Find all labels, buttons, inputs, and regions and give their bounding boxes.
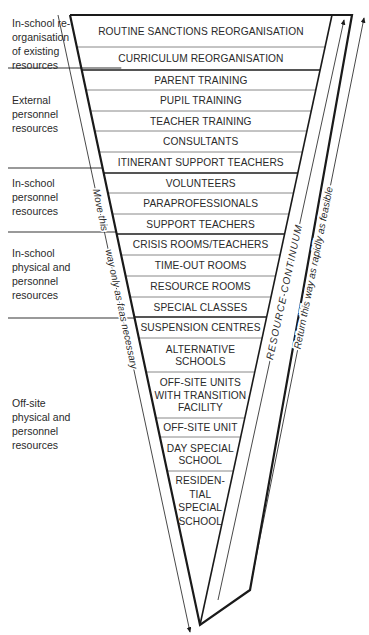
move-label: way only as far: [104, 248, 129, 316]
category-label-line: resources: [12, 205, 58, 217]
resource-continuum-funnel-diagram: ROUTINE SANCTIONS REORGANISATIONCURRICUL…: [0, 0, 369, 635]
row-label: TEACHER TRAINING: [150, 116, 252, 127]
funnel-row: RESOURCE ROOMS: [126, 276, 276, 292]
category-label-line: physical and: [12, 261, 71, 273]
row-label: DAY SPECIAL: [167, 443, 234, 454]
funnel-row: CURRICULUM REORGANISATION: [77, 47, 325, 64]
category-label-line: personnel: [12, 275, 58, 287]
funnel-row: CONSULTANTS: [95, 131, 307, 147]
row-label: OFF-SITE UNIT: [163, 422, 237, 433]
funnel-row: DAY SPECIALSCHOOL: [160, 437, 241, 466]
row-label: ITINERANT SUPPORT TEACHERS: [118, 157, 284, 168]
row-label: SCHOOL: [178, 455, 222, 466]
category-label: In-schoolpersonnelresources: [12, 177, 58, 217]
funnel-row: VOLUNTEERS: [104, 173, 298, 189]
category-label: In-schoolphysical andpersonnelresources: [12, 247, 71, 301]
category-label: Externalpersonnelresources: [12, 94, 58, 134]
row-label: SCHOOL: [178, 516, 222, 527]
row-label: ROUTINE SANCTIONS REORGANISATION: [98, 26, 304, 37]
row-label: TIAL: [189, 489, 211, 500]
row-label: FACILITY: [178, 402, 223, 413]
category-label-line: External: [12, 94, 51, 106]
category-label-line: personnel: [12, 108, 58, 120]
row-label: ALTERNATIVE: [166, 344, 235, 355]
funnel-row: ROUTINE SANCTIONS REORGANISATION: [98, 26, 304, 37]
category-label: In-school re-organisationof existingreso…: [12, 17, 71, 71]
category-label-line: resources: [12, 122, 58, 134]
row-label: TIME-OUT ROOMS: [155, 260, 247, 271]
funnel-row: ALTERNATIVESCHOOLS: [139, 338, 262, 367]
funnel-row: PARAPROFESSIONALS: [108, 193, 294, 209]
funnel-row: PUPIL TRAINING: [86, 90, 316, 106]
row-label: VOLUNTEERS: [166, 178, 236, 189]
row-label: SUPPORT TEACHERS: [146, 219, 255, 230]
row-label: CRISIS ROOMS/TEACHERS: [133, 239, 269, 250]
funnel-row: SUPPORT TEACHERS: [112, 214, 289, 230]
row-label: RESIDEN-: [175, 475, 224, 486]
return-label: Return this way as rapidly as feasible: [292, 185, 335, 349]
category-label-line: of existing: [12, 45, 59, 57]
funnel-row: CRISIS ROOMS/TEACHERS: [117, 234, 285, 250]
row-label: PARENT TRAINING: [154, 75, 247, 86]
row-label: CONSULTANTS: [163, 136, 239, 147]
funnel-row: OFF-SITE UNIT: [156, 418, 245, 433]
row-label: SPECIAL CLASSES: [154, 302, 248, 313]
category-label-line: Off-site: [12, 397, 46, 409]
row-label: PARAPROFESSIONALS: [143, 198, 258, 209]
row-label: WITH TRANSITION: [154, 390, 246, 401]
category-label-line: In-school: [12, 247, 55, 259]
funnel-row: SUSPENSION CENTRES: [134, 317, 266, 333]
row-label: CURRICULUM REORGANISATION: [118, 53, 283, 64]
category-label-line: organisation: [12, 31, 69, 43]
funnel-row: TIME-OUT ROOMS: [121, 255, 280, 271]
category-label-line: personnel: [12, 425, 58, 437]
row-label: RESOURCE ROOMS: [150, 281, 251, 292]
funnel-row: OFF-SITE UNITSWITH TRANSITIONFACILITY: [146, 372, 255, 413]
category-label-line: resources: [12, 59, 58, 71]
category-labels: In-school re-organisationof existingreso…: [12, 17, 71, 451]
row-label: PUPIL TRAINING: [160, 95, 242, 106]
category-label-line: physical and: [12, 411, 71, 423]
funnel-row: ITINERANT SUPPORT TEACHERS: [99, 152, 302, 168]
category-label-line: In-school re-: [12, 17, 71, 29]
row-label: SCHOOLS: [175, 356, 226, 367]
funnel-row: TEACHER TRAINING: [90, 111, 311, 127]
funnel-inner-edge: [200, 15, 332, 625]
funnel-border: [70, 15, 352, 625]
category-label-line: resources: [12, 439, 58, 451]
row-label: SPECIAL: [178, 502, 222, 513]
funnel-row: PARENT TRAINING: [82, 70, 320, 86]
funnel-outline: [70, 15, 352, 625]
row-label: OFF-SITE UNITS: [160, 377, 241, 388]
funnel-row: SPECIAL CLASSES: [130, 297, 271, 313]
category-label: Off-sitephysical andpersonnelresources: [12, 397, 71, 451]
row-label: SUSPENSION CENTRES: [140, 322, 260, 333]
category-label-line: personnel: [12, 191, 58, 203]
category-label-line: In-school: [12, 177, 55, 189]
move-label: as necessary: [117, 310, 140, 371]
category-label-line: resources: [12, 289, 58, 301]
